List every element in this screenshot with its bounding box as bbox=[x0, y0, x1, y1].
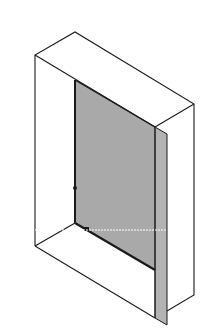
panel-side-strip bbox=[155, 127, 167, 325]
marker-point bbox=[73, 186, 77, 190]
diagram-canvas bbox=[0, 0, 217, 334]
rear-panel bbox=[75, 80, 155, 270]
isometric-box-drawing bbox=[0, 0, 217, 334]
